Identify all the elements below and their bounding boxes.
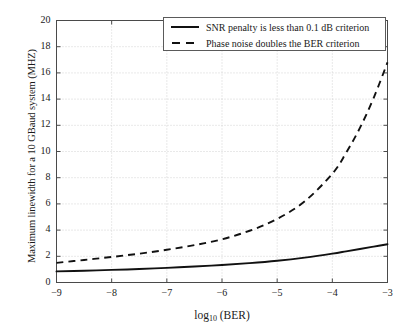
x-tick-label: −3	[375, 287, 401, 298]
legend: SNR penalty is less than 0.1 dB criterio…	[163, 17, 386, 51]
legend-item-phase-noise: Phase noise doubles the BER criterion	[164, 35, 385, 51]
y-tick-label: 10	[29, 145, 51, 156]
y-tick-label: 2	[29, 249, 51, 260]
x-axis-title-text: log10 (BER)	[194, 309, 250, 321]
y-tick-label: 16	[29, 66, 51, 77]
y-tick-label: 0	[29, 276, 51, 287]
series-line-phase-noise	[57, 62, 388, 262]
x-axis-title-base: log	[194, 309, 209, 321]
legend-solid-line-icon	[171, 21, 199, 33]
y-tick-label: 20	[29, 14, 51, 25]
x-tick-label: −8	[99, 287, 125, 298]
y-tick-label: 18	[29, 40, 51, 51]
y-tick-label: 6	[29, 197, 51, 208]
y-tick-label: 12	[29, 118, 51, 129]
x-tick-label: −9	[44, 287, 70, 298]
legend-dashed-line-icon	[171, 37, 199, 49]
gridlines	[57, 21, 388, 283]
y-tick-label: 14	[29, 92, 51, 103]
x-tick-label: −4	[319, 287, 345, 298]
x-tick-label: −6	[209, 287, 235, 298]
x-axis-title-rest: (BER)	[217, 309, 250, 321]
x-tick-label: −7	[154, 287, 180, 298]
x-axis-title: log10 (BER)	[56, 305, 388, 323]
legend-item-snr-penalty: SNR penalty is less than 0.1 dB criterio…	[164, 19, 385, 35]
legend-label-phase-noise: Phase noise doubles the BER criterion	[206, 38, 360, 49]
y-tick-label: 4	[29, 223, 51, 234]
x-axis-title-subscript: 10	[209, 314, 217, 323]
chart-figure: 02468101214161820 −9−8−7−6−5−4−3 Maximum…	[0, 0, 409, 331]
x-tick-label: −5	[264, 287, 290, 298]
y-tick-label: 8	[29, 171, 51, 182]
legend-label-snr-penalty: SNR penalty is less than 0.1 dB criterio…	[206, 22, 369, 33]
